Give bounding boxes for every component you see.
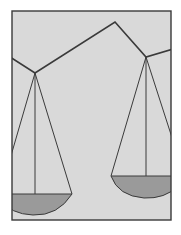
- balance-scale-illustration: [0, 0, 181, 235]
